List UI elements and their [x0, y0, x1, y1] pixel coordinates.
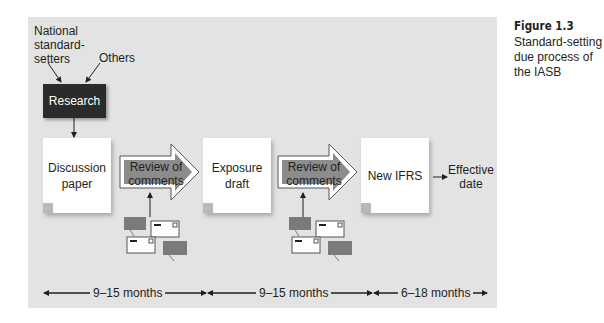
timeline-label-2: 9–15 months: [256, 286, 331, 300]
timeline-label-1: 9–15 months: [90, 286, 165, 300]
timeline-label-3: 6–18 months: [398, 286, 473, 300]
caption-line: due process of: [514, 50, 602, 65]
caption-line: the IASB: [514, 65, 602, 80]
figure-caption: Standard-setting due process of the IASB: [514, 35, 602, 80]
caption-line: Standard-setting: [514, 35, 602, 50]
figure-number: Figure 1.3: [514, 18, 574, 33]
